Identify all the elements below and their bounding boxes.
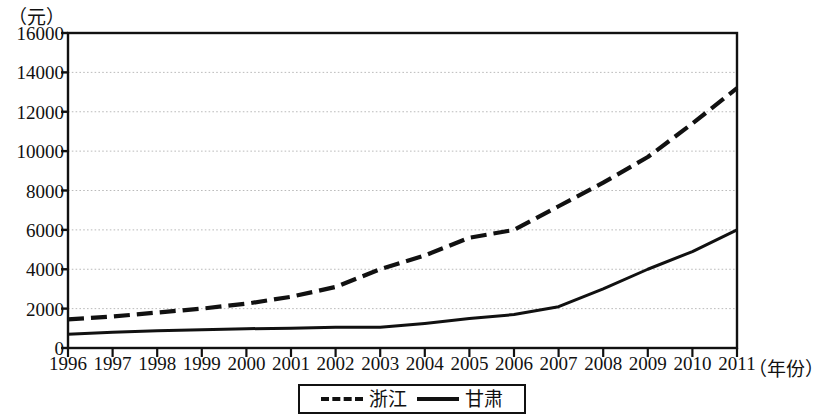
x-tick-label-2009: 2009 bbox=[629, 354, 667, 373]
x-tick-label-2004: 2004 bbox=[406, 354, 444, 373]
legend-item-1: 甘肃 bbox=[417, 390, 503, 409]
legend-swatch-dashed-icon bbox=[321, 397, 363, 401]
x-tick-label-1999: 1999 bbox=[183, 354, 221, 373]
x-tick-label-2005: 2005 bbox=[450, 354, 488, 373]
legend-swatch-solid-icon bbox=[417, 397, 459, 401]
x-tick-label-2000: 2000 bbox=[227, 354, 265, 373]
series-line-0 bbox=[68, 88, 737, 319]
x-axis-unit-label: （年份） bbox=[748, 354, 824, 381]
legend-label-0: 浙江 bbox=[369, 390, 407, 409]
x-tick-label-2006: 2006 bbox=[495, 354, 533, 373]
x-axis-tick-labels: 1996199719981999200020012002200320042005… bbox=[0, 352, 824, 380]
legend-label-1: 甘肃 bbox=[465, 390, 503, 409]
x-tick-label-2001: 2001 bbox=[272, 354, 310, 373]
x-tick-label-1998: 1998 bbox=[138, 354, 176, 373]
series-lines bbox=[68, 88, 737, 334]
legend-item-0: 浙江 bbox=[321, 390, 407, 409]
x-tick-label-2008: 2008 bbox=[584, 354, 622, 373]
series-line-1 bbox=[68, 230, 737, 334]
x-tick-label-2010: 2010 bbox=[673, 354, 711, 373]
x-tick-label-2003: 2003 bbox=[361, 354, 399, 373]
x-tick-label-2002: 2002 bbox=[317, 354, 355, 373]
chart-legend: 浙江 甘肃 bbox=[298, 384, 526, 414]
x-tick-label-1996: 1996 bbox=[49, 354, 87, 373]
x-tick-label-2007: 2007 bbox=[540, 354, 578, 373]
x-tick-label-1997: 1997 bbox=[94, 354, 132, 373]
line-chart: （元） 020004000600080001000012000140001600… bbox=[0, 0, 824, 418]
